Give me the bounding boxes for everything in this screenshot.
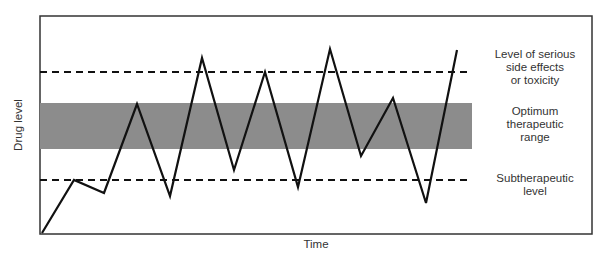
x-axis-label: Time bbox=[303, 238, 328, 250]
y-axis-label: Drug level bbox=[12, 99, 24, 151]
toxicity-label-line: or toxicity bbox=[480, 74, 590, 87]
optimum-label-line: range bbox=[480, 131, 590, 144]
subtherapeutic-label-line: Subtherapeutic bbox=[480, 172, 590, 185]
optimum-label-line: Optimum bbox=[480, 105, 590, 118]
subtherapeutic-label-line: level bbox=[480, 185, 590, 198]
toxicity-label-line: Level of serious bbox=[480, 48, 590, 61]
optimum-range-label: Optimum therapeutic range bbox=[480, 105, 590, 144]
optimum-label-line: therapeutic bbox=[480, 118, 590, 131]
subtherapeutic-label: Subtherapeutic level bbox=[480, 172, 590, 198]
toxicity-label: Level of serious side effects or toxicit… bbox=[480, 48, 590, 87]
toxicity-label-line: side effects bbox=[480, 61, 590, 74]
